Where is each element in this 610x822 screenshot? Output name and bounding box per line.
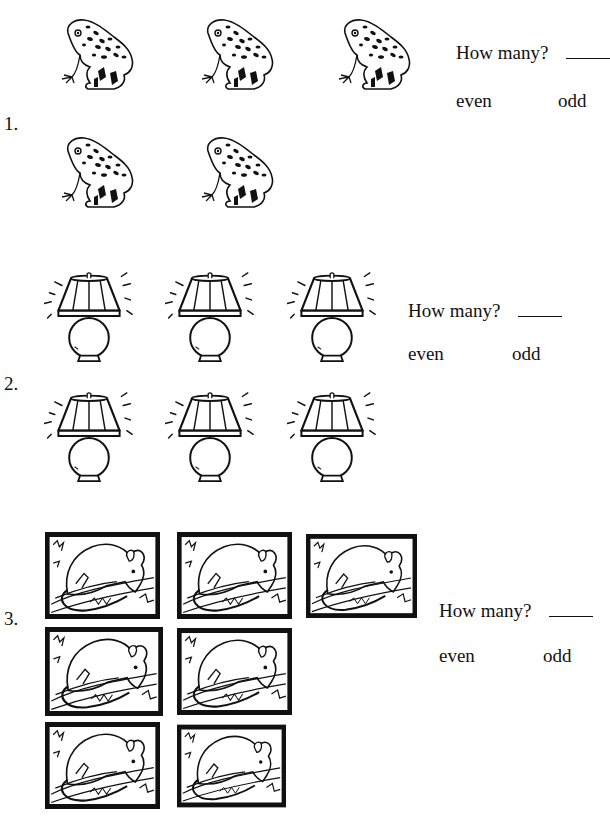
lamp-icon xyxy=(44,262,134,372)
problem-number: 1. xyxy=(4,113,18,135)
problem-number: 2. xyxy=(4,373,18,395)
choice-odd[interactable]: odd xyxy=(558,90,587,112)
how-many-label: How many? xyxy=(456,42,548,63)
frog-icon xyxy=(200,133,280,213)
choice-odd[interactable]: odd xyxy=(543,645,572,667)
lamp-icon xyxy=(165,382,255,492)
how-many-prompt: How many? xyxy=(439,600,593,622)
frog-icon xyxy=(337,15,417,95)
frog-icon xyxy=(200,15,280,95)
answer-blank[interactable] xyxy=(518,300,562,317)
opossum-icon xyxy=(177,628,292,715)
answer-blank[interactable] xyxy=(566,42,610,59)
lamp-icon xyxy=(165,262,255,372)
opossum-icon xyxy=(177,532,292,619)
choice-odd[interactable]: odd xyxy=(512,343,541,365)
lamp-icon xyxy=(44,382,134,492)
lamp-icon xyxy=(287,382,377,492)
how-many-label: How many? xyxy=(408,300,500,321)
how-many-label: How many? xyxy=(439,600,531,621)
opossum-icon xyxy=(45,532,160,619)
choice-even[interactable]: even xyxy=(439,645,475,667)
opossum-icon xyxy=(306,534,417,618)
problem-number: 3. xyxy=(4,608,18,630)
choice-even[interactable]: even xyxy=(456,90,492,112)
opossum-icon xyxy=(45,627,163,716)
how-many-prompt: How many? xyxy=(408,300,562,322)
how-many-prompt: How many? xyxy=(456,42,610,64)
lamp-icon xyxy=(287,262,377,372)
frog-icon xyxy=(60,133,140,213)
opossum-icon xyxy=(177,724,286,808)
answer-blank[interactable] xyxy=(549,600,593,617)
opossum-icon xyxy=(45,722,160,809)
choice-even[interactable]: even xyxy=(408,343,444,365)
frog-icon xyxy=(60,15,140,95)
